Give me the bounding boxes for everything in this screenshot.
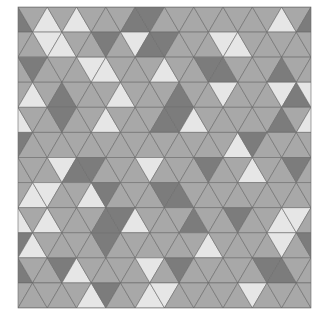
mosaic-tiles — [3, 7, 325, 308]
triangle-mosaic — [0, 0, 329, 324]
